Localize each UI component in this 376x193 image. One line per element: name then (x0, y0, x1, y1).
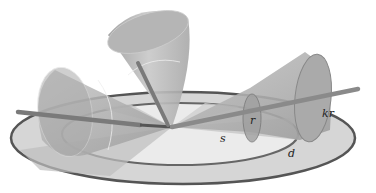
diagram-canvas: r kr s d (0, 0, 376, 193)
label-kr: kr (322, 107, 335, 120)
label-d: d (288, 147, 295, 160)
label-r: r (250, 114, 256, 127)
cones-annulus-figure: r kr s d (0, 0, 376, 193)
label-s: s (220, 132, 226, 145)
